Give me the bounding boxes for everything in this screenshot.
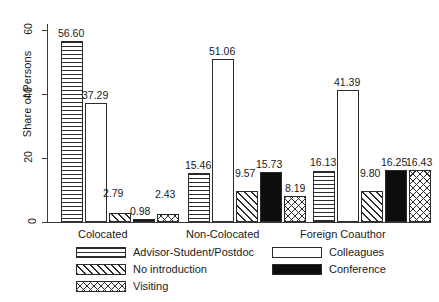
legend-swatch-empty-white xyxy=(272,247,322,258)
legend-swatch-horizontal-lines xyxy=(76,247,126,258)
bar-no-introduction[interactable] xyxy=(236,191,258,222)
legend-swatch-solid-black xyxy=(272,264,322,275)
bar-chart-figure: Share of Persons 6040200 56.6037.292.790… xyxy=(0,0,439,302)
legend-label: Conference xyxy=(329,263,386,275)
bar-value-label: 9.80 xyxy=(360,167,380,179)
bar-value-label: 15.46 xyxy=(185,159,211,171)
bar-no-introduction[interactable] xyxy=(109,213,131,222)
bar-visiting[interactable] xyxy=(409,170,431,222)
bar-value-label: 8.19 xyxy=(285,182,305,194)
bar-value-label: 2.43 xyxy=(155,188,175,200)
group-label-non-colocated: Non-Colocated xyxy=(186,228,259,240)
bar-visiting[interactable] xyxy=(284,196,306,222)
bar-value-label: 16.25 xyxy=(381,156,407,168)
bar-value-label: 15.73 xyxy=(256,158,282,170)
legend-swatch-crosshatch xyxy=(76,281,126,292)
legend-label: Advisor-Student/Postdoc xyxy=(133,246,254,258)
x-axis-baseline xyxy=(47,222,431,223)
legend-label: Colleagues xyxy=(329,246,384,258)
bar-value-label: 2.79 xyxy=(103,187,123,199)
y-tick-label: 0 xyxy=(26,218,38,224)
chart-legend: Advisor-Student/PostdocNo introductionVi… xyxy=(0,246,439,302)
y-tick-label: 20 xyxy=(22,151,34,163)
group-label-colocated: Colocated xyxy=(78,228,128,240)
bar-conference[interactable] xyxy=(260,172,282,222)
plot-area: 56.6037.292.790.982.4315.4651.069.5715.7… xyxy=(47,24,431,222)
bar-value-label: 51.06 xyxy=(209,45,235,57)
legend-label: Visiting xyxy=(133,280,168,292)
bar-value-label: 16.13 xyxy=(310,156,336,168)
bar-colleagues[interactable] xyxy=(212,59,234,222)
bar-value-label: 0.98 xyxy=(130,205,150,217)
bar-value-label: 16.43 xyxy=(406,156,432,168)
group-label-foreign-coauthor: Foreign Coauthor xyxy=(300,228,386,240)
bar-conference[interactable] xyxy=(133,219,155,222)
y-tick-label: 60 xyxy=(22,24,34,36)
bar-advisor-student-postdoc[interactable] xyxy=(61,41,83,222)
legend-label: No introduction xyxy=(133,263,207,275)
bar-colleagues[interactable] xyxy=(85,103,107,222)
y-tick-mark xyxy=(42,222,47,223)
bar-visiting[interactable] xyxy=(157,214,179,222)
bar-advisor-student-postdoc[interactable] xyxy=(188,173,210,222)
bar-colleagues[interactable] xyxy=(337,90,359,222)
bar-value-label: 37.29 xyxy=(82,89,108,101)
bar-value-label: 41.39 xyxy=(334,76,360,88)
legend-swatch-diagonal-stripes xyxy=(76,264,126,275)
bar-advisor-student-postdoc[interactable] xyxy=(313,171,335,223)
bar-conference[interactable] xyxy=(385,170,407,222)
bar-value-label: 56.60 xyxy=(58,27,84,39)
bar-no-introduction[interactable] xyxy=(361,191,383,222)
y-tick-label: 40 xyxy=(22,87,34,99)
bar-value-label: 9.57 xyxy=(235,167,255,179)
